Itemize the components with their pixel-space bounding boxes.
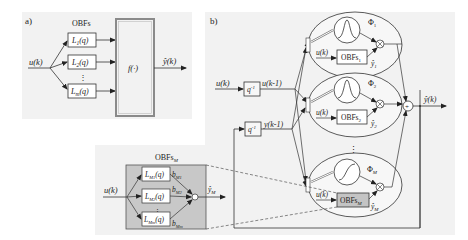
filter-block-2: L2(q) — [68, 55, 96, 69]
obfs-block-1: OBFs1 — [341, 53, 362, 63]
nonlinear-function-label: f(·) — [128, 63, 138, 73]
filter-block-m: Lm(q) — [68, 84, 96, 98]
svg-text:+: + — [405, 103, 409, 111]
delayed-u-label: u(k-1) — [262, 79, 282, 88]
panel-a: a) OBFs u(k) L1(q) L2(q) ⋮ Lm(q) f( — [22, 12, 192, 119]
svg-text:LM2(q): LM2(q) — [144, 192, 164, 202]
inset-input-label: u(k) — [104, 185, 118, 195]
inset-sum-node — [192, 194, 198, 200]
gaussian-membership-icon — [334, 17, 360, 43]
delay-block-u: q-1 — [244, 82, 260, 96]
sigmoid-membership-icon — [334, 159, 360, 185]
panel-a-label: a) — [25, 16, 32, 26]
svg-text:u(k): u(k) — [316, 108, 329, 117]
filter-ellipsis: ⋮ — [79, 73, 87, 82]
svg-text:L1(q): L1(q) — [71, 36, 89, 46]
gaussian-membership-icon — [334, 77, 360, 103]
output-yhat-label: ŷ(k) — [423, 95, 437, 104]
svg-text:L2(q): L2(q) — [71, 58, 89, 68]
summation-node: + — [403, 101, 413, 111]
svg-text:LM1(q): LM1(q) — [144, 170, 164, 180]
input-u-label: u(k) — [29, 57, 43, 67]
panel-b-label: b) — [210, 16, 218, 26]
delay-block-y: q-1 — [245, 122, 261, 136]
nonlinear-function-block: f(·) — [116, 19, 154, 116]
diagram-canvas: a) OBFs u(k) L1(q) L2(q) ⋮ Lm(q) f( — [0, 0, 468, 240]
input-u-label: u(k) — [216, 78, 230, 88]
delayed-y-label: y(k-1) — [263, 120, 283, 129]
obfs-title: OBFs — [72, 19, 91, 28]
inset-title: OBFs — [155, 153, 174, 162]
output-yhat-label: ŷ(k) — [162, 56, 176, 66]
obfs-block-2: OBFs2 — [341, 113, 362, 123]
filter-block-1: L1(q) — [68, 33, 96, 47]
svg-text:Lm(q): Lm(q) — [70, 87, 89, 97]
panel-b: b) u(k) q-1 u(k-1) q-1 y(k-1) — [205, 12, 455, 235]
svg-text:u(k): u(k) — [316, 190, 329, 199]
svg-text:u(k): u(k) — [316, 48, 329, 57]
